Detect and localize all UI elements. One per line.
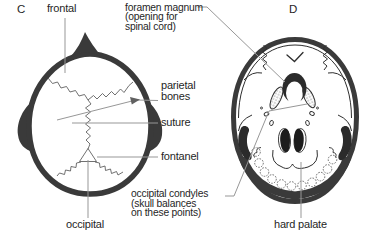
label-occipital-condyles: occipital condyles (skull balances on th… [131, 189, 208, 218]
label-fontanel: fontanel [161, 151, 199, 162]
label-hard-palate: hard palate [274, 219, 327, 230]
label-occipital: occipital [66, 219, 104, 230]
skull-diagram-figure: C frontal foramen magnum (opening for sp… [0, 0, 371, 247]
panel-letter-c: C [17, 4, 25, 15]
skull-top-view-drawing [18, 32, 163, 194]
label-frontal: frontal [47, 3, 76, 14]
skull-bottom-view-drawing [234, 40, 357, 202]
label-suture: suture [161, 117, 190, 128]
panel-letter-d: D [289, 4, 297, 15]
label-parietal-bones: parietal bones [161, 80, 195, 101]
label-foramen-magnum: foramen magnum (opening for spinal cord) [125, 3, 203, 32]
skull-c-outline [29, 54, 151, 194]
